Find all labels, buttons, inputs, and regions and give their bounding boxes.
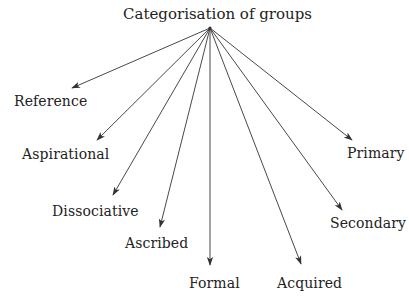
node-dissociative: Dissociative (52, 203, 139, 219)
arrow-to-ascribed (160, 28, 210, 227)
node-aspirational: Aspirational (22, 146, 109, 162)
node-acquired: Acquired (277, 275, 342, 291)
node-formal: Formal (189, 275, 240, 291)
hub-point (208, 26, 211, 29)
arrow-to-dissociative (113, 28, 210, 195)
arrow-to-secondary (210, 28, 342, 210)
arrow-to-aspirational (97, 28, 210, 140)
node-secondary: Secondary (330, 215, 406, 231)
node-primary: Primary (347, 145, 405, 161)
node-ascribed: Ascribed (125, 235, 188, 251)
diagram-title: Categorisation of groups (123, 6, 312, 23)
node-reference: Reference (14, 93, 87, 109)
group-categorisation-diagram: Categorisation of groups Reference Aspir… (0, 0, 409, 302)
arrow-to-reference (72, 28, 210, 88)
